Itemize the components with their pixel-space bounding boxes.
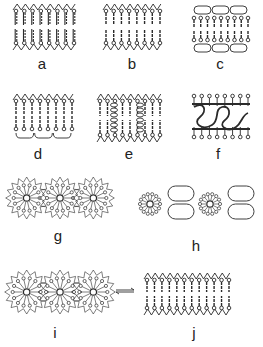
label-a: a [38, 56, 46, 71]
label-d: d [34, 146, 42, 161]
panel-c [192, 6, 250, 52]
panel-d [13, 94, 74, 138]
panel-f [192, 94, 250, 139]
label-e: e [125, 146, 133, 161]
label-i: i [53, 325, 56, 340]
panel-j [144, 273, 231, 315]
panel-b [103, 4, 162, 50]
label-c: c [216, 56, 224, 71]
panel-h [138, 186, 254, 219]
label-f: f [216, 146, 220, 161]
label-j: j [192, 325, 195, 340]
label-b: b [128, 56, 136, 71]
label-h: h [192, 238, 200, 253]
lipid-phase-diagram [0, 0, 263, 347]
panel-e [97, 94, 162, 142]
label-g: g [54, 228, 62, 243]
panel-a [13, 4, 76, 50]
equilibrium-arrow-icon [116, 288, 134, 294]
panel-i [5, 270, 116, 314]
panel-g [6, 177, 115, 219]
